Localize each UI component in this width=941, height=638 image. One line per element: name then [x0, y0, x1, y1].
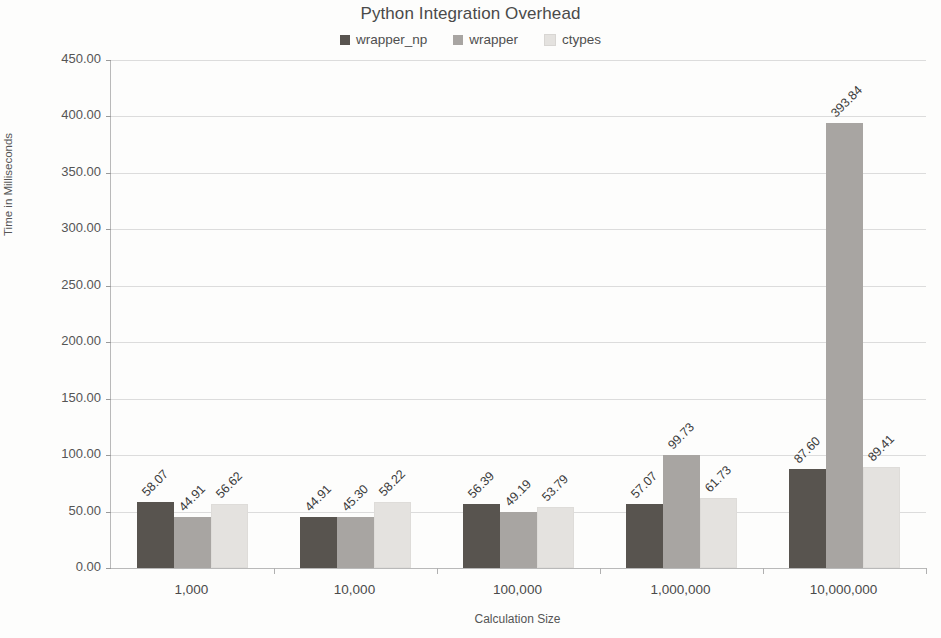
bar-group: 57.0799.7361.73 — [600, 60, 763, 568]
bar[interactable]: 53.79 — [537, 507, 574, 568]
gridline — [111, 568, 926, 569]
bar-value-label: 56.62 — [213, 469, 245, 501]
bar-group: 58.0744.9156.62 — [111, 60, 274, 568]
y-axis-tick-label: 0.00 — [76, 559, 101, 574]
y-axis-tick-label: 150.00 — [61, 390, 101, 405]
bar-value-label: 45.30 — [339, 482, 371, 514]
legend-swatch-icon — [544, 34, 556, 46]
x-axis-tick-label: 1,000,000 — [599, 582, 762, 597]
x-axis-tick — [763, 568, 764, 574]
chart-title: Python Integration Overhead — [0, 4, 941, 24]
bar-value-label: 57.07 — [628, 469, 660, 501]
bar[interactable]: 58.22 — [374, 502, 411, 568]
y-axis-tick-label: 450.00 — [61, 51, 101, 66]
x-axis-tick — [437, 568, 438, 574]
legend-swatch-icon — [340, 35, 350, 45]
bar-group: 44.9145.3058.22 — [274, 60, 437, 568]
bar[interactable]: 44.91 — [300, 517, 337, 568]
bar[interactable]: 87.60 — [789, 469, 826, 568]
y-axis-tick — [106, 568, 111, 569]
bar[interactable]: 44.91 — [174, 517, 211, 568]
y-axis-title: Time in Milliseconds — [2, 218, 14, 236]
y-axis-tick-label: 400.00 — [61, 107, 101, 122]
y-axis-tick-label: 100.00 — [61, 446, 101, 461]
legend-item[interactable]: wrapper_np — [340, 32, 427, 47]
bar-group-bars: 56.3949.1953.79 — [463, 60, 574, 568]
bar[interactable]: 61.73 — [700, 498, 737, 568]
y-axis-tick-label: 250.00 — [61, 277, 101, 292]
bar[interactable]: 49.19 — [500, 512, 537, 568]
bar-value-label: 393.84 — [828, 83, 865, 120]
bar-value-label: 87.60 — [791, 434, 823, 466]
bar[interactable]: 99.73 — [663, 455, 700, 568]
x-axis-tick-label: 10,000 — [273, 582, 436, 597]
bar-value-label: 44.91 — [302, 482, 334, 514]
x-axis-tick — [926, 568, 927, 574]
bar[interactable]: 89.41 — [863, 467, 900, 568]
bar-value-label: 58.07 — [139, 467, 171, 499]
bar-value-label: 58.22 — [376, 467, 408, 499]
y-axis-tick-label: 50.00 — [68, 503, 101, 518]
x-axis-tick — [274, 568, 275, 574]
x-axis-tick-label: 1,000 — [110, 582, 273, 597]
bar-value-label: 99.73 — [665, 420, 697, 452]
bar-value-label: 89.41 — [865, 432, 897, 464]
chart-container: Python Integration Overhead wrapper_npwr… — [0, 0, 941, 638]
bar[interactable]: 57.07 — [626, 504, 663, 568]
x-axis-tick-label: 10,000,000 — [762, 582, 925, 597]
bar-value-label: 49.19 — [502, 477, 534, 509]
legend-swatch-icon — [453, 35, 463, 45]
bar[interactable]: 56.62 — [211, 504, 248, 568]
bar-value-label: 44.91 — [176, 482, 208, 514]
bar[interactable]: 45.30 — [337, 517, 374, 568]
bar[interactable]: 56.39 — [463, 504, 500, 568]
legend-item[interactable]: wrapper — [453, 32, 518, 47]
bar-value-label: 56.39 — [465, 469, 497, 501]
legend-item[interactable]: ctypes — [544, 32, 601, 47]
bar-value-label: 53.79 — [539, 472, 571, 504]
x-axis-tick — [600, 568, 601, 574]
bar-value-label: 61.73 — [702, 463, 734, 495]
y-axis-tick-label: 200.00 — [61, 333, 101, 348]
legend-label: wrapper_np — [356, 32, 427, 47]
legend-label: ctypes — [562, 32, 601, 47]
legend-label: wrapper — [469, 32, 518, 47]
x-axis-tick-label: 100,000 — [436, 582, 599, 597]
x-axis-title: Calculation Size — [110, 612, 925, 626]
y-axis-tick-label: 300.00 — [61, 220, 101, 235]
bar[interactable]: 58.07 — [137, 502, 174, 568]
plot-area: 58.0744.9156.6244.9145.3058.2256.3949.19… — [110, 60, 926, 569]
bar-group: 87.60393.8489.41 — [763, 60, 926, 568]
bar-group-bars: 57.0799.7361.73 — [626, 60, 737, 568]
chart-legend: wrapper_npwrapperctypes — [0, 32, 941, 47]
bar-group-bars: 58.0744.9156.62 — [137, 60, 248, 568]
bar-group-bars: 44.9145.3058.22 — [300, 60, 411, 568]
bar-groups: 58.0744.9156.6244.9145.3058.2256.3949.19… — [111, 60, 926, 568]
bar[interactable]: 393.84 — [826, 123, 863, 568]
bar-group: 56.3949.1953.79 — [437, 60, 600, 568]
bar-group-bars: 87.60393.8489.41 — [789, 60, 900, 568]
y-axis-tick-label: 350.00 — [61, 164, 101, 179]
